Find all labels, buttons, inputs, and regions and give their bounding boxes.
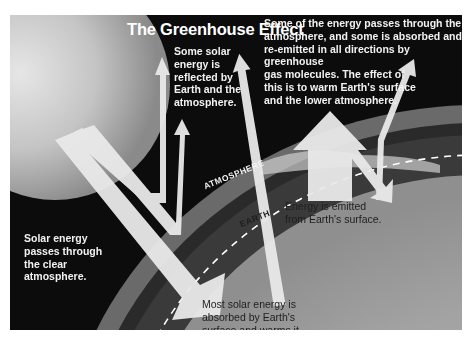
greenhouse-diagram: The Greenhouse Effect Some solar energy … [10,15,462,330]
label-emitted: Energy is emitted from Earth's surface. [285,200,382,226]
label-passes-through: Solar energy passes through the clear at… [24,232,102,283]
label-greenhouse: Some of the energy passes through the at… [264,17,462,107]
label-absorbed: Most solar energy is absorbed by Earth's… [202,298,302,330]
label-reflected: Some solar energy is reflected by Earth … [174,45,241,109]
